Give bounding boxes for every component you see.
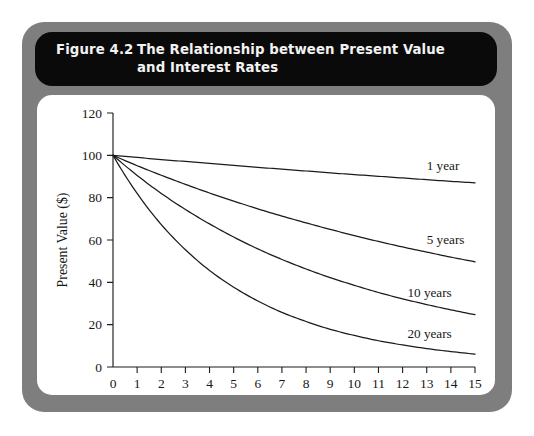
x-tick-label: 2 — [158, 376, 165, 391]
x-tick-label: 9 — [327, 376, 334, 391]
x-tick-label: 3 — [182, 376, 189, 391]
y-axis-title: Present Value ($) — [55, 193, 71, 288]
curve-20-years — [113, 155, 475, 354]
series-label-1-year: 1 year — [427, 158, 460, 173]
x-tick-label: 7 — [279, 376, 286, 391]
y-axis: 020406080100120 — [82, 106, 113, 375]
title-row: Figure 4.2 The Relationship between Pres… — [35, 41, 497, 76]
curve-series — [113, 155, 475, 354]
y-tick-label: 60 — [89, 233, 103, 248]
x-tick-label: 15 — [468, 376, 482, 391]
y-tick-label: 100 — [82, 148, 103, 163]
x-tick-label: 13 — [420, 376, 434, 391]
x-tick-label: 0 — [110, 376, 117, 391]
present-value-chart: 020406080100120 0123456789101112131415 1… — [37, 95, 495, 395]
figure-title-line-2: and Interest Rates — [137, 59, 445, 77]
series-label-5-years: 5 years — [427, 232, 465, 247]
y-tick-label: 0 — [95, 360, 102, 375]
y-tick-label: 120 — [82, 106, 103, 121]
x-tick-label: 14 — [444, 376, 458, 391]
x-tick-label: 12 — [396, 376, 410, 391]
x-tick-label: 8 — [303, 376, 310, 391]
figure-title-bar: Figure 4.2 The Relationship between Pres… — [35, 32, 497, 86]
curve-5-years — [113, 155, 475, 261]
x-tick-label: 10 — [348, 376, 362, 391]
x-tick-label: 1 — [134, 376, 141, 391]
series-label-10-years: 10 years — [407, 285, 451, 300]
y-tick-label: 40 — [89, 275, 103, 290]
chart-svg: 020406080100120 0123456789101112131415 1… — [37, 95, 495, 395]
x-tick-label: 6 — [254, 376, 261, 391]
x-tick-label: 11 — [372, 376, 385, 391]
x-tick-label: 5 — [230, 376, 237, 391]
figure-title-line-1: The Relationship between Present Value — [137, 41, 445, 59]
figure-number: Figure 4.2 — [56, 41, 137, 59]
curve-1-year — [113, 155, 475, 183]
plot-panel: 020406080100120 0123456789101112131415 1… — [37, 95, 495, 395]
y-tick-label: 80 — [89, 190, 103, 205]
x-tick-label: 4 — [206, 376, 213, 391]
series-label-20-years: 20 years — [407, 326, 451, 341]
y-tick-label: 20 — [89, 317, 103, 332]
figure-title-text: The Relationship between Present Value a… — [137, 41, 445, 76]
x-axis: 0123456789101112131415 — [110, 367, 482, 391]
